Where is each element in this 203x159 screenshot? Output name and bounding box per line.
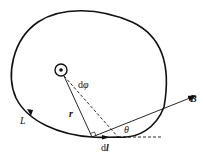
label-B: B — [189, 93, 197, 104]
current-dot-icon — [59, 68, 63, 72]
closed-loop-path — [11, 11, 166, 138]
label-dphi: dφ — [78, 79, 89, 90]
label-theta: θ — [124, 124, 129, 135]
dashed-radius-line — [64, 76, 118, 137]
label-dl: dl — [101, 142, 109, 153]
ampere-loop-diagram: B L r θ dφ dl — [0, 0, 203, 159]
label-r: r — [69, 108, 73, 119]
label-L: L — [19, 115, 26, 126]
field-B-line — [92, 96, 195, 137]
loop-direction-arrow-icon — [102, 135, 110, 140]
